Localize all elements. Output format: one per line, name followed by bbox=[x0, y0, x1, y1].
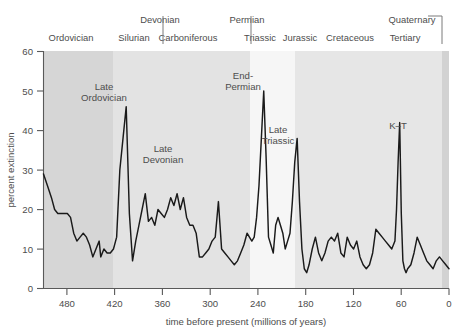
y-axis-ticks bbox=[37, 52, 44, 289]
period-label-ordovician: Ordovician bbox=[49, 32, 94, 43]
y-tick-label: 0 bbox=[28, 283, 33, 294]
x-axis-tick-labels: 480 420 360 300 240 180 120 60 0 bbox=[59, 298, 452, 309]
chart-svg: Devonian Permian Quaternary Ordovician S… bbox=[0, 0, 457, 333]
y-tick-label: 50 bbox=[22, 86, 33, 97]
period-labels-top: Devonian Permian Quaternary bbox=[140, 14, 436, 25]
y-tick-label: 30 bbox=[22, 165, 33, 176]
annotation-late-ordovician-line2: Ordovician bbox=[81, 92, 127, 103]
period-label-jurassic: Jurassic bbox=[283, 32, 318, 43]
x-tick-label: 60 bbox=[396, 298, 407, 309]
period-labels-bottom: Ordovician Silurian Carboniferous Triass… bbox=[49, 32, 421, 43]
x-tick-label: 420 bbox=[107, 298, 123, 309]
annotation-end-permian-line2: Permian bbox=[225, 81, 261, 92]
annotation-k-t: K–T bbox=[389, 120, 407, 131]
x-tick-label: 180 bbox=[298, 298, 314, 309]
annotation-late-ordovician-line1: Late bbox=[95, 81, 114, 92]
y-tick-label: 60 bbox=[22, 46, 33, 57]
period-label-silurian: Silurian bbox=[118, 32, 149, 43]
period-label-permian: Permian bbox=[230, 14, 265, 25]
y-tick-label: 20 bbox=[22, 204, 33, 215]
band-quaternary bbox=[442, 51, 449, 288]
x-tick-label: 240 bbox=[250, 298, 266, 309]
period-label-triassic: Triassic bbox=[244, 32, 276, 43]
annotation-late-triassic-line1: Late bbox=[269, 124, 288, 135]
period-label-devonian: Devonian bbox=[140, 14, 180, 25]
band-jurassic-tertiary bbox=[295, 51, 442, 288]
annotation-late-devonian-line1: Late bbox=[154, 143, 173, 154]
y-axis-title: percent extinction bbox=[5, 132, 16, 207]
x-tick-label: 360 bbox=[154, 298, 170, 309]
period-label-cretaceous: Cretaceous bbox=[326, 32, 374, 43]
x-axis-ticks bbox=[67, 289, 449, 296]
annotation-late-devonian-line2: Devonian bbox=[143, 154, 184, 165]
period-label-tertiary: Tertiary bbox=[390, 32, 421, 43]
x-tick-label: 480 bbox=[59, 298, 75, 309]
y-tick-label: 40 bbox=[22, 125, 33, 136]
x-tick-label: 120 bbox=[345, 298, 361, 309]
annotation-end-permian-line1: End- bbox=[233, 70, 253, 81]
period-label-carboniferous: Carboniferous bbox=[159, 32, 218, 43]
y-axis-tick-labels: 60 50 40 30 20 10 0 bbox=[22, 46, 33, 294]
extinction-chart-figure: Devonian Permian Quaternary Ordovician S… bbox=[0, 0, 457, 333]
x-tick-label: 300 bbox=[202, 298, 218, 309]
x-axis-title: time before present (millions of years) bbox=[166, 316, 327, 327]
y-tick-label: 10 bbox=[22, 244, 33, 255]
x-tick-label: 0 bbox=[446, 298, 451, 309]
annotation-late-triassic-line2: Triassic bbox=[262, 135, 295, 146]
